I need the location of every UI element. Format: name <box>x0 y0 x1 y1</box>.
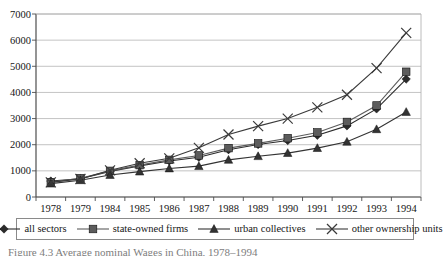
x-axis-tick-label: 1979 <box>70 203 91 214</box>
data-point-marker <box>225 144 233 152</box>
y-axis-tick-label: 7000 <box>10 9 31 20</box>
data-point-marker <box>224 130 234 140</box>
data-point-marker <box>373 102 381 110</box>
y-axis-tick-label: 1000 <box>10 165 31 176</box>
x-axis-tick-label: 1990 <box>277 203 298 214</box>
data-point-marker <box>372 63 382 73</box>
legend-entry[interactable]: all sectors <box>0 223 67 235</box>
y-axis-tick-label: 0 <box>26 192 31 203</box>
x-axis-tick-label: 1988 <box>218 203 239 214</box>
triangle-marker-icon <box>197 223 231 235</box>
x-axis-tick-label: 1994 <box>396 203 418 214</box>
x-axis-tick-label: 1987 <box>188 203 209 214</box>
gridlines-group <box>36 14 421 197</box>
figure-caption: Figure 4.3 Average nominal Wages in Chin… <box>8 246 428 256</box>
x-axis-tick-label: 1992 <box>336 203 357 214</box>
x-axis-tick-labels: 1978197919841985198619871988198919901991… <box>40 203 417 214</box>
data-point-marker <box>342 90 352 100</box>
data-point-marker <box>284 134 292 142</box>
y-axis-tick-label: 2000 <box>10 139 31 150</box>
legend-label: state-owned firms <box>113 223 189 235</box>
data-point-marker <box>312 102 322 112</box>
legend-label: all sectors <box>24 223 66 235</box>
legend-entry[interactable]: urban collectives <box>197 223 305 235</box>
chart-plot-area: 70006000500040003000200010000 1978197919… <box>0 0 431 216</box>
x-axis-tick-marks <box>36 197 421 201</box>
x-axis-tick-label: 1978 <box>40 203 61 214</box>
data-point-marker <box>402 68 410 76</box>
data-point-marker <box>372 125 380 133</box>
diamond-marker-icon <box>0 223 21 235</box>
y-axis-tick-label: 6000 <box>10 35 31 46</box>
data-point-marker <box>401 28 411 38</box>
legend-label: other ownership units <box>352 223 443 235</box>
x-axis-tick-label: 1989 <box>248 203 269 214</box>
x-axis-tick-label: 1993 <box>366 203 387 214</box>
data-point-marker <box>253 121 263 131</box>
legend-label: urban collectives <box>234 223 305 235</box>
x-axis-tick-label: 1984 <box>100 203 122 214</box>
data-point-marker <box>89 225 97 233</box>
series-all-sectors <box>47 75 411 185</box>
square-marker-icon <box>76 223 110 235</box>
legend-item-list: all sectorsstate-owned firmsurban collec… <box>0 223 447 235</box>
series-state-owned-firms <box>47 68 410 186</box>
y-axis-tick-label: 4000 <box>10 87 31 98</box>
x-axis-tick-label: 1991 <box>307 203 328 214</box>
data-point-marker <box>195 152 203 160</box>
data-series-group <box>46 28 411 188</box>
series-line <box>51 79 406 181</box>
x-axis-tick-label: 1985 <box>129 203 150 214</box>
plot-frame <box>36 14 421 197</box>
data-point-marker <box>314 129 322 137</box>
y-axis-tick-labels: 70006000500040003000200010000 <box>10 9 31 203</box>
data-point-marker <box>254 140 262 148</box>
data-point-marker <box>402 108 410 116</box>
chart-legend: all sectorsstate-owned firmsurban collec… <box>16 218 414 240</box>
data-point-marker <box>343 137 351 145</box>
legend-entry[interactable]: state-owned firms <box>76 223 189 235</box>
y-axis-tick-label: 5000 <box>10 61 31 72</box>
series-line <box>51 72 406 182</box>
data-point-marker <box>0 225 8 233</box>
data-point-marker <box>343 118 351 126</box>
legend-entry[interactable]: other ownership units <box>315 223 443 235</box>
y-axis-tick-label: 3000 <box>10 113 31 124</box>
cross-marker-icon <box>315 223 349 235</box>
x-axis-tick-label: 1986 <box>159 203 180 214</box>
line-chart-svg: 70006000500040003000200010000 1978197919… <box>0 0 431 216</box>
